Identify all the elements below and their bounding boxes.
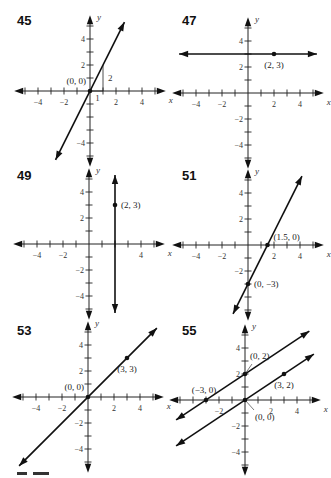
x-axis-arrow bbox=[169, 397, 178, 403]
point-label: (2, 3) bbox=[264, 60, 284, 70]
y-tick-label: −2 bbox=[74, 419, 83, 428]
y-tick-label: 4 bbox=[239, 37, 243, 46]
graph-panel-53: 53 −4−224−4−224xy(0, 0)(3, 3) bbox=[0, 310, 165, 465]
x-tick-label: 4 bbox=[138, 404, 142, 413]
graph-49: −4−24−4−224xy(2, 3) bbox=[0, 155, 165, 310]
x-tick-label: 4 bbox=[140, 98, 144, 107]
line-arrow bbox=[308, 51, 317, 57]
data-point bbox=[272, 52, 277, 57]
y-tick-label: −4 bbox=[234, 141, 243, 150]
x-tick-label: 2 bbox=[272, 100, 276, 109]
cut-off-next-problem-text bbox=[17, 472, 57, 478]
point-label: (1.5, 0) bbox=[274, 232, 300, 242]
y-axis-label: y bbox=[96, 12, 101, 22]
x-axis-arrow bbox=[172, 90, 181, 96]
y-tick-label: 4 bbox=[236, 344, 240, 353]
y-tick-label: −2 bbox=[231, 422, 240, 431]
slope-rise-label: 2 bbox=[108, 73, 113, 83]
y-tick-label: −2 bbox=[234, 267, 243, 276]
y-axis-arrow bbox=[245, 169, 251, 178]
y-tick-label: −4 bbox=[76, 139, 85, 148]
graph-51: −4−224−224xy(1.5, 0)(0, −3) bbox=[165, 155, 330, 310]
x-axis-arrow bbox=[315, 242, 324, 248]
graph-panel-51: 51 −4−224−224xy(1.5, 0)(0, −3) bbox=[165, 155, 330, 310]
x-axis-arrow bbox=[312, 397, 321, 403]
x-tick-label: 2 bbox=[272, 252, 276, 261]
y-axis-arrow bbox=[87, 15, 93, 24]
y-tick-label: 4 bbox=[239, 189, 243, 198]
y-tick-label: 2 bbox=[239, 215, 243, 224]
line-arrow bbox=[179, 51, 188, 57]
graph-line bbox=[176, 331, 309, 420]
x-tick-label: −2 bbox=[60, 98, 69, 107]
x-tick-label: −4 bbox=[192, 100, 201, 109]
y-axis-label: y bbox=[94, 318, 99, 328]
y-axis-arrow bbox=[242, 467, 248, 476]
data-point bbox=[282, 372, 287, 377]
point-label: (2, 3) bbox=[121, 200, 141, 210]
x-tick-label: 2 bbox=[112, 404, 116, 413]
line-arrow bbox=[176, 412, 185, 420]
data-point bbox=[246, 282, 251, 287]
line-arrow bbox=[176, 438, 185, 446]
x-axis-arrow bbox=[13, 241, 22, 247]
x-tick-label: 4 bbox=[295, 407, 299, 416]
y-tick-label: −4 bbox=[75, 292, 84, 301]
point-label: (0, 0) bbox=[67, 76, 87, 86]
data-point bbox=[204, 398, 209, 403]
graph-53: −4−224−4−224xy(0, 0)(3, 3) bbox=[0, 310, 165, 465]
line-arrow bbox=[300, 331, 309, 339]
line-arrow bbox=[118, 22, 125, 31]
graph-panel-49: 49 −4−24−4−224xy(2, 3) bbox=[0, 155, 165, 310]
point-label: (0, 2) bbox=[250, 351, 270, 361]
y-tick-label: −4 bbox=[231, 448, 240, 457]
x-axis-label: x bbox=[326, 249, 331, 259]
data-point bbox=[125, 356, 130, 361]
x-axis-arrow bbox=[156, 241, 165, 247]
x-tick-label: −2 bbox=[59, 251, 68, 260]
y-axis-label: y bbox=[251, 321, 256, 331]
x-axis-label: x bbox=[326, 97, 331, 107]
y-axis-label: y bbox=[254, 166, 259, 176]
graph-panel-45: 45 −4−224−424xy12(0, 0) bbox=[0, 0, 165, 155]
y-tick-label: 2 bbox=[239, 63, 243, 72]
x-tick-label: −2 bbox=[218, 100, 227, 109]
graph-45: −4−224−424xy12(0, 0) bbox=[0, 0, 165, 155]
x-axis-arrow bbox=[12, 394, 21, 400]
y-tick-label: −2 bbox=[234, 115, 243, 124]
point-label: (0, −3) bbox=[254, 279, 279, 289]
point-label: (3, 3) bbox=[117, 364, 137, 374]
y-tick-label: 4 bbox=[79, 341, 83, 350]
y-axis-arrow bbox=[85, 464, 91, 473]
y-axis-arrow bbox=[245, 17, 251, 26]
line-arrow bbox=[295, 176, 302, 185]
y-tick-label: 4 bbox=[81, 35, 85, 44]
slope-run-label: 1 bbox=[95, 93, 100, 103]
x-axis-arrow bbox=[155, 394, 164, 400]
x-axis-arrow bbox=[14, 88, 23, 94]
y-tick-label: −4 bbox=[74, 445, 83, 454]
y-tick-label: 2 bbox=[80, 214, 84, 223]
x-tick-label: −4 bbox=[32, 404, 41, 413]
y-tick-label: 2 bbox=[81, 61, 85, 70]
point-label: (3, 2) bbox=[274, 380, 294, 390]
y-tick-label: 4 bbox=[80, 188, 84, 197]
point-label: (−3, 0) bbox=[192, 385, 217, 395]
point-label: (0, 0) bbox=[65, 382, 85, 392]
y-axis-label: y bbox=[95, 165, 100, 175]
x-tick-label: −4 bbox=[33, 251, 42, 260]
x-tick-label: 4 bbox=[298, 252, 302, 261]
line-arrow bbox=[305, 354, 314, 362]
x-tick-label: 2 bbox=[114, 98, 118, 107]
label-leader bbox=[245, 400, 254, 410]
data-point bbox=[113, 203, 118, 208]
x-tick-label: 4 bbox=[298, 100, 302, 109]
point-label: (0, 0) bbox=[255, 412, 275, 422]
line-arrow bbox=[112, 175, 118, 184]
y-axis-label: y bbox=[254, 14, 259, 24]
graph-panel-55: 55 −224−4−224xy(0, 2)(−3, 0)(3, 2)(0, 0) bbox=[165, 310, 330, 465]
x-tick-label: −4 bbox=[34, 98, 43, 107]
y-tick-label: 2 bbox=[79, 367, 83, 376]
y-axis-arrow bbox=[86, 168, 92, 177]
x-tick-label: −2 bbox=[58, 404, 67, 413]
